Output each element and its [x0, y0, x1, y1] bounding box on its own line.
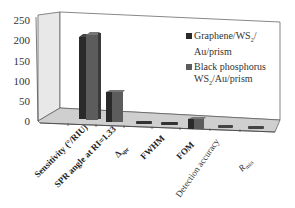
x-label-delta-spr: Δspr [112, 142, 130, 160]
y-tick: 100 [14, 75, 31, 87]
side-wall [38, 12, 60, 121]
y-tick: 250 [14, 14, 31, 26]
x-label-fwhm: FWHM [138, 133, 167, 162]
bar-group-detection-accuracy [218, 125, 233, 128]
y-axis: 250 200 150 100 50 0 [14, 14, 31, 127]
bar-group-fwhm [161, 122, 178, 125]
y-tick: 200 [14, 34, 31, 46]
y-tick: 150 [14, 55, 31, 67]
x-label-sensitivity: Sensitivity (°/RIU) [32, 122, 89, 179]
legend-swatch [186, 64, 192, 70]
x-label-detection-accuracy: Detection accuracy [173, 136, 221, 199]
x-label-rmin: Rmin [236, 156, 255, 175]
x-label-fom: FOM [174, 139, 196, 161]
bar-group-delta-spr [136, 121, 152, 124]
bar-group-fom [188, 117, 206, 129]
y-tick: 50 [19, 95, 31, 107]
x-axis: Sensitivity (°/RIU) SPR angle at RI=1.33… [32, 122, 254, 199]
y-tick: 0 [25, 115, 31, 127]
legend-item-graphene: Graphene/WS2/Au/prism [186, 30, 286, 58]
bar-group-rmin [248, 126, 264, 129]
legend-item-black-phosphorus: Black phosphorusWS2/Au/prism [186, 61, 286, 89]
legend: Graphene/WS2/Au/prism Black phosphorusWS… [186, 30, 286, 92]
bar-group-spr-angle [106, 90, 125, 122]
bar-group-sensitivity [79, 32, 101, 120]
legend-swatch [186, 33, 192, 39]
